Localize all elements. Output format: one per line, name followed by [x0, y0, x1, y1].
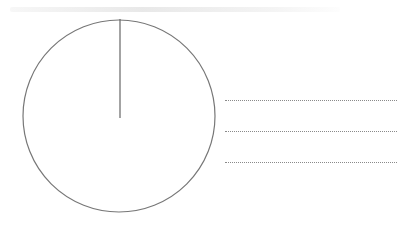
pie-chart [0, 0, 418, 228]
legend-entry-1-placeholder [225, 100, 397, 101]
legend-entry-2-placeholder [225, 131, 397, 132]
legend-entry-3-placeholder [225, 162, 397, 163]
pie-outline [23, 20, 215, 212]
